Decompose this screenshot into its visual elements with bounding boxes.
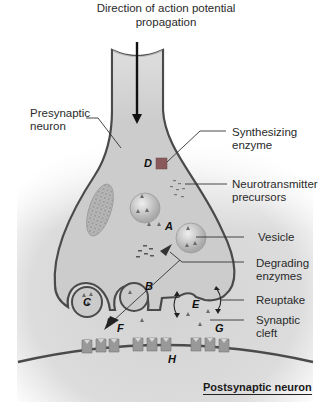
nt-precursors-label-1: Neurotransmitter [232, 178, 318, 191]
synaptic-cleft-label-2: cleft [256, 327, 277, 340]
nt-precursors-label-2: precursors [232, 191, 286, 204]
presynaptic-label-1: Presynaptic [30, 107, 90, 120]
synthesizing-enzyme [156, 158, 167, 169]
synaptic-cleft-label-1: Synaptic [256, 314, 300, 327]
title-line-1: Direction of action potential [86, 2, 246, 15]
letter-b: B [145, 280, 153, 292]
letter-f: F [117, 322, 124, 334]
receptors [82, 338, 229, 353]
vesicle-b [120, 283, 148, 311]
synapse-diagram: Direction of action potential propagatio… [0, 0, 331, 420]
letter-d: D [144, 157, 152, 169]
degrading-enzymes-label-2: enzymes [256, 270, 302, 283]
synapse-illustration [0, 0, 331, 420]
synthesizing-enzyme-label-2: enzyme [232, 139, 272, 152]
vesicle-upper [130, 193, 160, 223]
title-line-2: propagation [86, 16, 246, 29]
letter-a: A [165, 220, 173, 232]
vesicle-lower [176, 223, 206, 253]
letter-h: H [168, 353, 176, 365]
letter-e: E [192, 298, 199, 310]
degrading-enzymes-label-1: Degrading [256, 257, 309, 270]
postsynaptic-neuron-label: Postsynaptic neuron [203, 381, 312, 395]
synthesizing-enzyme-label-1: Synthesizing [232, 126, 297, 139]
presynaptic-label-2: neuron [30, 120, 66, 133]
letter-c: C [83, 296, 91, 308]
letter-g: G [215, 322, 224, 334]
reuptake-label: Reuptake [256, 294, 305, 307]
vesicle-label: Vesicle [258, 231, 294, 244]
